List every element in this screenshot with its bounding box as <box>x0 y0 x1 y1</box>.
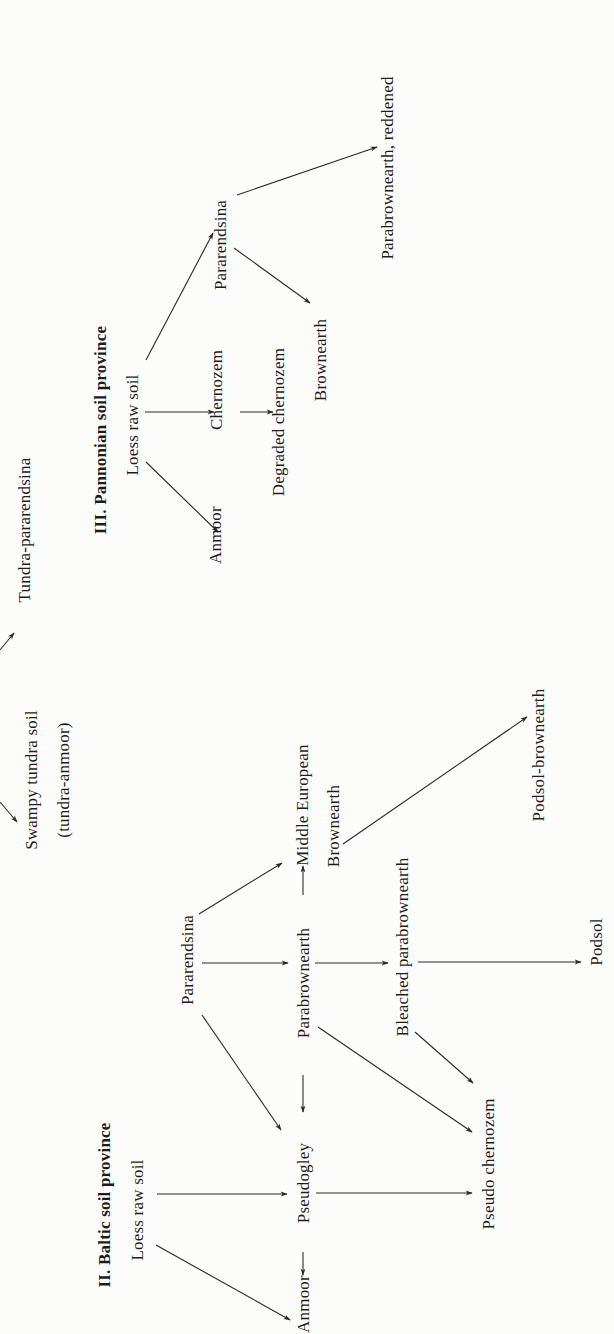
label-iii-loess-raw-soil: Loess raw soil <box>124 374 141 475</box>
arrow-iii-pararendsina-to-brownearth <box>234 248 310 303</box>
arrow-ii-parabrownearth-to-pseudo-chernozem <box>318 1027 472 1132</box>
arrow-to-swampy-tundra-soil <box>0 802 17 822</box>
arrow-ii-pararendsina-to-pseudogley <box>202 1015 281 1130</box>
label-iii-parabrownearth-reddened: Parabrownearth, reddened <box>379 76 396 259</box>
arrow-iii-loess-to-pararendsina <box>146 233 213 360</box>
label-iii-pararendsina: Pararendsina <box>212 200 229 290</box>
label-ii-parabrownearth: Parabrownearth <box>295 928 312 1038</box>
label-swampy-tundra-soil: Swampy tundra soil <box>23 710 40 850</box>
arrow-ii-middle-european-to-podsol-brownearth <box>343 717 527 844</box>
arrow-layer <box>0 0 614 1334</box>
arrow-iii-pararendsina-to-reddened <box>237 147 377 195</box>
label-ii-anmoor: Anmoor <box>295 1275 312 1333</box>
arrow-ii-loess-to-anmoor <box>156 1245 290 1320</box>
label-iii-brownearth: Brownearth <box>312 319 329 401</box>
label-tundra-pararendsina: Tundra-pararendsina <box>16 458 33 603</box>
section-title-baltic: II. Baltic soil province <box>96 1122 113 1287</box>
label-iii-anmoor: Anmoor <box>207 506 224 564</box>
arrow-ii-bleached-to-pseudo-chernozem <box>415 1032 473 1083</box>
arrow-to-tundra-pararendsina <box>0 633 14 650</box>
label-ii-loess-raw-soil: Loess raw soil <box>129 1159 146 1260</box>
arrow-ii-pararendsina-to-middle-european <box>199 863 282 914</box>
label-ii-bleached-parabrownearth: Bleached parabrownearth <box>394 858 411 1037</box>
label-ii-podsol-brownearth: Podsol-brownearth <box>530 689 547 822</box>
soil-development-diagram: Tundra-pararendsina Swampy tundra soil (… <box>0 0 614 1334</box>
label-ii-brownearth: Brownearth <box>325 785 342 867</box>
label-ii-pseudogley: Pseudogley <box>295 1143 312 1223</box>
section-title-pannonian: III. Pannonian soil province <box>92 326 109 534</box>
label-ii-pararendsina: Pararendsina <box>179 915 196 1005</box>
label-ii-podsol: Podsol <box>588 918 605 966</box>
label-iii-chernozem: Chernozem <box>208 350 225 430</box>
label-ii-pseudo-chernozem: Pseudo chernozem <box>480 1098 497 1229</box>
label-ii-middle-european: Middle European <box>294 744 311 866</box>
label-tundra-anmoor: (tundra-anmoor) <box>55 722 72 837</box>
label-iii-degraded-chernozem: Degraded chernozem <box>270 348 287 497</box>
